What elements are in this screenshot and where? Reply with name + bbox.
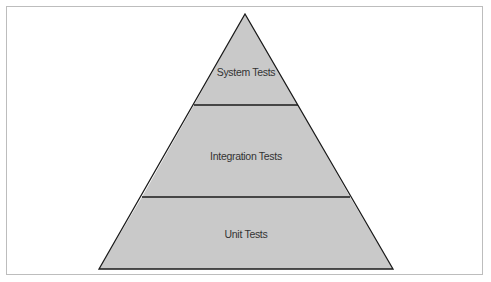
tier-label-system-tests: System Tests: [217, 66, 276, 78]
test-pyramid-diagram: System Tests Integration Tests Unit Test…: [0, 0, 491, 282]
tier-label-unit-tests: Unit Tests: [225, 228, 268, 240]
tier-label-integration-tests: Integration Tests: [210, 150, 282, 162]
tier-system-tests-shape: [194, 14, 298, 105]
